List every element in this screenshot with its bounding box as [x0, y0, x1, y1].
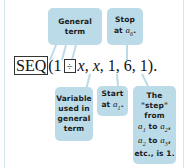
formula-text: , — [85, 57, 93, 74]
callout-text: term — [64, 124, 85, 134]
callout-text: Stop — [115, 15, 135, 25]
formula-text: (1 — [48, 57, 61, 74]
callout-text: etc., is 1. — [134, 149, 174, 159]
callout-text: a2 to a3, — [138, 135, 171, 149]
callout-start: Start at a1. — [97, 86, 128, 116]
formula-text: , 1, 6, 1). — [100, 57, 157, 74]
callout-text: a1 to a2, — [138, 121, 171, 135]
seq-key: SEQ — [14, 56, 48, 75]
callout-variable: Variable used in general term — [55, 87, 93, 141]
callout-text: at a1. — [101, 99, 123, 113]
callout-text: Variable — [56, 94, 92, 104]
seq-formula: SEQ(1÷x, x, 1, 6, 1). — [14, 57, 157, 75]
callout-text: Start — [102, 89, 124, 99]
divide-key: ÷ — [64, 59, 76, 73]
formula-var: x — [78, 57, 85, 74]
callout-general-term: General term — [48, 8, 102, 45]
callout-text: "step" — [141, 101, 168, 111]
callout-text: used in — [58, 104, 89, 114]
callout-text: general — [58, 114, 91, 124]
callout-stop: Stop at a6. — [107, 8, 143, 45]
callout-text: General — [58, 17, 92, 27]
callout-text: term — [65, 27, 86, 37]
callout-text: The — [147, 91, 163, 101]
callout-text: at a6. — [114, 25, 136, 39]
formula-var: x — [93, 57, 100, 74]
callout-step: The "step" from a1 to a2, a2 to a3, etc.… — [133, 86, 176, 164]
callout-text: from — [144, 111, 164, 121]
